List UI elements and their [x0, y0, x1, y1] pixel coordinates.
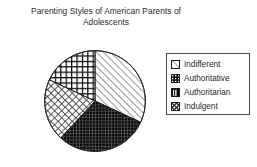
chart-title: Parenting Styles of American Parents of …: [6, 6, 206, 28]
legend-item-indulgent[interactable]: Indulgent: [171, 99, 246, 113]
legend-label-authoritative: Authoritative: [184, 74, 230, 83]
legend-label-authoritarian: Authoritarian: [184, 88, 230, 97]
legend-label-indifferent: Indifferent: [184, 60, 220, 69]
pie-chart-svg: [44, 50, 146, 152]
legend-label-indulgent: Indulgent: [184, 102, 218, 111]
diagonal-hatch-swatch-icon: [171, 60, 180, 69]
legend-item-authoritarian[interactable]: Authoritarian: [171, 85, 246, 99]
legend-item-authoritative[interactable]: Authoritative: [171, 71, 246, 85]
chart-legend: Indifferent Authoritative: [166, 53, 250, 115]
pie-chart-figure: Parenting Styles of American Parents of …: [0, 0, 257, 167]
legend-item-indifferent[interactable]: Indifferent: [171, 57, 246, 71]
fine-dark-grid-swatch-icon: [171, 88, 180, 97]
bold-grid-swatch-icon: [171, 74, 180, 83]
pie-chart-plot-area: [44, 50, 146, 152]
diamond-check-swatch-icon: [171, 102, 180, 111]
pie-slice-group: [45, 51, 146, 152]
